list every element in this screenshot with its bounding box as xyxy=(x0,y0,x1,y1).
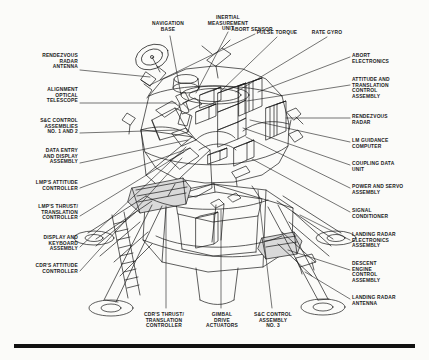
bottom-divider-rule xyxy=(14,344,415,348)
callout-sc-control-assemblies-1-2: S&C CONTROL ASSEMBLIES NO. 1 AND 2 xyxy=(8,118,78,135)
callout-display-keyboard-assembly: DISPLAY AND KEYBOARD ASSEMBLY xyxy=(8,235,78,252)
alignment-optical-telescope-unit xyxy=(176,92,190,126)
callout-cdrs-thrust-translation-controller: CDR'S THRUST/ TRANSLATION CONTROLLER xyxy=(130,312,198,329)
callout-lm-guidance-computer: LM GUIDANCE COMPUTER xyxy=(352,138,426,149)
gimbal-drive-actuator-struts xyxy=(211,193,241,242)
callout-alignment-optical-telescope: ALIGNMENT OPTICAL TELESCOPE xyxy=(8,87,78,104)
callout-descent-engine-control-assembly: DESCENT ENGINE CONTROL ASSEMBLY xyxy=(352,261,426,283)
avionics-equipment-boxes xyxy=(196,78,286,166)
callout-power-and-servo-assembly: POWER AND SERVO ASSEMBLY xyxy=(352,184,429,195)
ascent-stage-shell xyxy=(141,66,289,183)
callout-landing-radar-electronics-assembly: LANDING RADAR ELECTRONICS ASSEMBLY xyxy=(352,232,429,249)
callout-attitude-translation-control-assembly: ATTITUDE AND TRANSLATION CONTROL ASSEMBL… xyxy=(352,77,426,99)
callout-landing-radar-antenna: LANDING RADAR ANTENNA xyxy=(352,295,429,306)
callout-cdrs-attitude-controller: CDR'S ATTITUDE CONTROLLER xyxy=(4,263,78,274)
callout-rendezvous-radar-antenna: RENDEZVOUS RADAR ANTENNA xyxy=(8,53,78,70)
ascent-engine-cover xyxy=(172,128,236,150)
callout-navigation-base: NAVIGATION BASE xyxy=(138,21,198,32)
callout-signal-conditioner: SIGNAL CONDITIONER xyxy=(352,208,426,219)
callout-rendezvous-radar: RENDEZVOUS RADAR xyxy=(352,114,426,125)
callout-lmps-thrust-translation-controller: LMP'S THRUST/ TRANSLATION CONTROLLER xyxy=(4,204,78,221)
callout-lmps-attitude-controller: LMP'S ATTITUDE CONTROLLER xyxy=(4,180,78,191)
rendezvous-radar-antenna-dish xyxy=(132,40,173,98)
steerable-antenna-mast xyxy=(202,40,231,78)
rcs-thruster-quads xyxy=(122,108,303,142)
callout-rate-gyro: RATE GYRO xyxy=(299,30,355,36)
callout-sc-control-assembly-3: S&C CONTROL ASSEMBLY NO. 3 xyxy=(240,312,306,329)
callout-data-entry-display-assembly: DATA ENTRY AND DISPLAY ASSEMBLY xyxy=(8,148,78,165)
callout-coupling-data-unit: COUPLING DATA UNIT xyxy=(352,161,426,172)
callout-abort-electronics: ABORT ELECTRONICS xyxy=(352,53,426,64)
figure-canvas: ABORT SENSOR NAVIGATION BASE INERTIAL ME… xyxy=(0,0,429,360)
